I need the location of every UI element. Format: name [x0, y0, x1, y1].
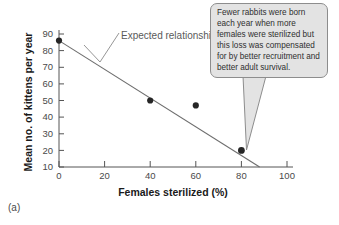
callout-box: Fewer rabbits were born each year when m…	[210, 3, 328, 78]
y-axis-title: Mean no. of kittens per year	[22, 22, 34, 182]
y-tick-label: 40	[33, 111, 53, 122]
x-tick-label: 100	[275, 170, 299, 181]
data-point	[193, 102, 199, 108]
y-tick-label: 80	[33, 45, 53, 56]
y-tick-label: 50	[33, 95, 53, 106]
x-axis-title: Females sterilized (%)	[59, 186, 287, 198]
x-tick-label: 20	[93, 170, 117, 181]
y-tick-label: 70	[33, 61, 53, 72]
figure-caption: (a)	[8, 202, 20, 213]
callout-tail	[243, 76, 266, 150]
x-tick-label: 60	[184, 170, 208, 181]
x-tick-label: 80	[229, 170, 253, 181]
expected-relationship-leader-line	[84, 33, 119, 62]
data-point	[238, 147, 245, 154]
y-tick-label: 30	[33, 128, 53, 139]
data-point	[147, 97, 153, 103]
y-tick-label: 90	[33, 28, 53, 39]
y-tick-label: 20	[33, 145, 53, 156]
x-axis-ticks	[59, 161, 287, 167]
x-tick-label: 0	[47, 170, 71, 181]
y-axis-ticks	[59, 34, 64, 167]
expected-relationship-label: Expected relationship	[121, 30, 217, 41]
data-point	[56, 38, 62, 44]
figure-panel-a: 90 80 70 60 50 40 30 20 10 0 20 40 60 80…	[0, 0, 339, 225]
y-tick-label: 60	[33, 78, 53, 89]
x-tick-label: 40	[138, 170, 162, 181]
